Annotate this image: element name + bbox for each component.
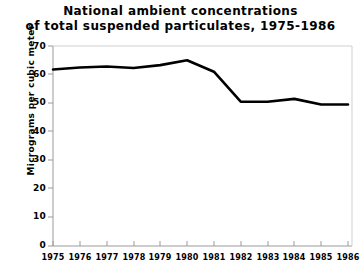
x-axis-ticks [53,241,348,246]
axis-lines [53,46,352,246]
chart-container: National ambient concentrations of total… [0,0,361,268]
y-axis-ticks [48,46,53,246]
data-line-total-suspended-particulates [53,60,348,104]
plot-area [0,0,361,268]
